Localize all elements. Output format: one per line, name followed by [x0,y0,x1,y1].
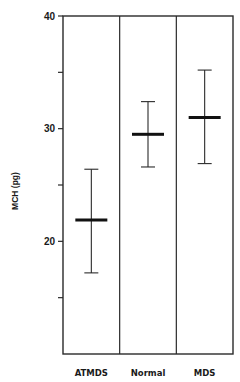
plot-border [63,16,233,354]
x-category-label: Normal [131,368,166,378]
plot-frame [63,16,233,354]
x-category-label: ATMDS [75,368,108,378]
y-tick-label: 20 [44,236,56,247]
mch-errorbar-chart: 203040 ATMDSNormalMDS MCH (pg) [0,0,240,382]
y-tick-label: 40 [44,11,56,22]
x-axis-labels: ATMDSNormalMDS [75,368,216,378]
y-axis-label: MCH (pg) [10,172,20,210]
y-axis: 203040 [44,11,63,298]
error-bar-mds [189,70,221,164]
y-tick-label: 30 [44,123,56,134]
error-bar-atmds [75,169,107,273]
error-bar-normal [132,102,164,167]
x-category-label: MDS [194,368,216,378]
error-bars [75,70,220,273]
